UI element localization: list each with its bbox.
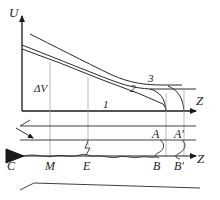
drop-to-A-prime	[168, 86, 184, 111]
point-label-A-prime: A′	[174, 128, 184, 140]
point-label-M: M	[45, 160, 55, 172]
curve-3	[30, 34, 182, 85]
upper-curves	[22, 34, 196, 111]
channel-top-kink	[20, 120, 30, 126]
point-label-E: E	[83, 160, 90, 172]
curve-label-2: 2	[130, 83, 136, 94]
figure-container: U Z ΔV 1 2 3 Z C M E B B′ A A′	[0, 0, 220, 200]
z-axis-label-upper: Z	[196, 94, 203, 107]
bottom-boundary-line	[20, 183, 200, 190]
zigzag-icon	[85, 141, 90, 155]
inflow-arrow-icon	[16, 128, 33, 138]
figure-drawing	[0, 0, 220, 200]
curve-1	[22, 49, 163, 104]
z-axis-label-lower: Z	[197, 152, 204, 165]
guide-lines	[50, 62, 184, 158]
lower-diagram	[6, 120, 200, 190]
curve-label-1: 1	[103, 99, 109, 110]
curve-label-3: 3	[148, 73, 154, 84]
point-label-B: B	[153, 160, 160, 172]
upper-axes	[22, 16, 196, 111]
point-label-A: A	[152, 128, 159, 140]
drop-to-A	[150, 89, 166, 111]
point-label-C: C	[7, 160, 15, 172]
point-label-B-prime: B′	[174, 160, 184, 172]
u-axis-label: U	[9, 6, 18, 19]
delta-v-label: ΔV	[34, 83, 47, 94]
s-curve-A-B	[155, 140, 163, 158]
